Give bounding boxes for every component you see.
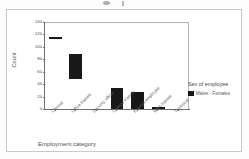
legend: Sex of employee Males - Females [188,81,249,96]
y-tick-label-0: 0 [40,107,42,111]
y-tick-label-120: 120 [35,32,42,36]
y-tick-label-100: 100 [35,45,42,49]
chart-frame: 140 120 100 80 60 40 20 0 Count [6,9,242,152]
y-tick-label-140: 140 [35,20,42,24]
y-tick-label-80: 80 [37,57,42,61]
legend-swatch-icon [188,91,194,96]
cropped-artifact-mark [122,1,124,6]
chart-screenshot: 140 120 100 80 60 40 20 0 Count [0,0,249,159]
y-axis-ticks: 140 120 100 80 60 40 20 0 [21,22,42,110]
y-tick-label-60: 60 [37,70,42,74]
legend-item-males-females: Males - Females [188,91,249,96]
y-axis-title: Count [11,40,17,80]
y-tick-mark [43,109,45,110]
y-tick-label-40: 40 [37,82,42,86]
cropped-artifact-dot [103,1,110,5]
bar-office-trainee [69,54,82,79]
y-tick-label-20: 20 [37,95,42,99]
bar-clerical [49,37,62,39]
legend-title: Sex of employee [188,81,249,87]
legend-item-label: Males - Females [196,91,230,96]
x-axis-title: Employment category [38,141,96,148]
